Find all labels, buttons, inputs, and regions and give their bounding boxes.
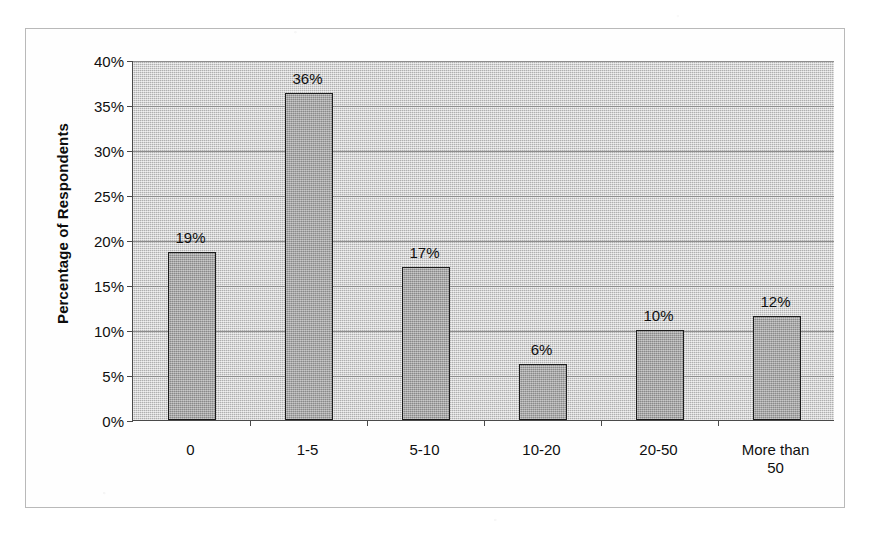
gridline <box>133 241 834 242</box>
bar <box>285 93 333 420</box>
bar <box>519 364 567 420</box>
bar <box>636 330 684 420</box>
y-axis-tick-mark <box>127 376 133 377</box>
y-axis-tick-label: 25% <box>94 188 124 205</box>
gridline <box>133 376 834 377</box>
y-axis-tick-label: 10% <box>94 323 124 340</box>
bar <box>168 252 216 420</box>
x-axis-tick-label: 1-5 <box>297 441 319 459</box>
x-axis-tick-mark <box>601 420 602 426</box>
x-axis-tick-mark <box>367 420 368 426</box>
bar <box>402 267 450 420</box>
bar <box>753 316 801 420</box>
x-axis-tick-label: 5-10 <box>409 441 439 459</box>
bar-value-label: 19% <box>175 229 205 246</box>
chart-frame: Percentage of Respondents 0%5%10%15%20%2… <box>25 28 845 508</box>
y-axis-tick-label: 30% <box>94 143 124 160</box>
y-axis-tick-label: 5% <box>102 368 124 385</box>
bar-value-label: 17% <box>409 244 439 261</box>
bar-value-label: 10% <box>643 307 673 324</box>
y-axis-tick-mark <box>127 421 133 422</box>
bar-value-label: 12% <box>760 293 790 310</box>
y-axis-tick-mark <box>127 61 133 62</box>
y-axis-tick-mark <box>127 196 133 197</box>
y-axis-tick-mark <box>127 106 133 107</box>
gridline <box>133 151 834 152</box>
y-axis-tick-label: 35% <box>94 98 124 115</box>
bar-value-label: 36% <box>292 70 322 87</box>
y-axis-tick-mark <box>127 241 133 242</box>
x-axis-tick-label: 0 <box>186 441 194 459</box>
gridline <box>133 106 834 107</box>
plot-area <box>132 61 834 421</box>
x-axis-tick-mark <box>484 420 485 426</box>
y-axis-tick-label: 15% <box>94 278 124 295</box>
x-axis-tick-label: More than 50 <box>742 441 810 478</box>
y-axis-title: Percentage of Respondents <box>54 114 71 334</box>
y-axis-tick-label: 0% <box>102 413 124 430</box>
gridline <box>133 61 834 62</box>
x-axis-tick-mark <box>250 420 251 426</box>
y-axis-tick-mark <box>127 286 133 287</box>
gridline <box>133 286 834 287</box>
bar-value-label: 6% <box>531 341 553 358</box>
y-axis-tick-mark <box>127 331 133 332</box>
y-axis-tick-label: 20% <box>94 233 124 250</box>
y-axis-tick-mark <box>127 151 133 152</box>
x-axis-tick-mark <box>718 420 719 426</box>
gridline <box>133 331 834 332</box>
x-axis-tick-label: 10-20 <box>522 441 560 459</box>
gridline <box>133 196 834 197</box>
y-axis-tick-label: 40% <box>94 53 124 70</box>
x-axis-tick-label: 20-50 <box>639 441 677 459</box>
